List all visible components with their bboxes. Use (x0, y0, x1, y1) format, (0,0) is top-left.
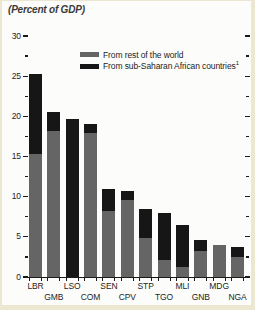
x-axis-label: MDG (203, 282, 235, 291)
x-bar-edge-tick (84, 278, 85, 281)
chart-title: (Percent of GDP) (8, 4, 85, 15)
y-axis-minor-tick-right (246, 256, 249, 257)
x-axis-label: SEN (93, 282, 125, 291)
bar-segment-sub-saharan (158, 213, 171, 260)
y-axis-label: 10 (4, 192, 21, 201)
bar-segment-sub-saharan (84, 124, 97, 134)
x-axis-label: LSO (56, 282, 88, 291)
x-bar-edge-tick (194, 278, 195, 281)
legend-swatch-sub-saharan-icon (80, 64, 99, 69)
y-axis-label: 30 (4, 32, 21, 41)
bar-segment-sub-saharan (139, 209, 152, 239)
x-bar-edge-tick (158, 278, 159, 281)
y-axis-major-tick (23, 236, 28, 237)
x-axis-label: CPV (111, 293, 143, 302)
x-axis-label: NGA (222, 293, 254, 302)
figure: (Percent of GDP) From rest of the world … (0, 0, 255, 310)
x-bar-edge-tick (206, 278, 207, 281)
y-axis-label: 15 (4, 152, 21, 161)
bar-segment-sub-saharan (66, 119, 79, 277)
y-axis-minor-tick (25, 136, 28, 137)
y-axis-major-tick (23, 196, 28, 197)
bar-segment-sub-saharan (231, 247, 244, 257)
y-axis-minor-tick-right (246, 55, 249, 56)
x-bar-edge-tick (243, 278, 244, 281)
y-axis-major-tick (23, 35, 28, 36)
y-axis-minor-tick (25, 216, 28, 217)
y-axis-minor-tick-right (246, 136, 249, 137)
y-axis-major-tick (23, 116, 28, 117)
bar-segment-rest-of-world (176, 267, 189, 277)
bar-segment-rest-of-world (139, 238, 152, 277)
bar-segment-sub-saharan (176, 225, 189, 268)
x-bar-edge-tick (59, 278, 60, 281)
legend: From rest of the world From sub-Saharan … (80, 49, 239, 72)
bar-segment-rest-of-world (158, 260, 171, 277)
legend-label-sub-saharan: From sub-Saharan African countries (103, 61, 236, 71)
y-axis-minor-tick-right (246, 216, 249, 217)
y-axis-major-tick (23, 276, 28, 277)
x-axis-label: GMB (38, 293, 70, 302)
bar-segment-rest-of-world (231, 257, 244, 277)
legend-label-rest-of-world: From rest of the world (103, 50, 183, 60)
bar-segment-rest-of-world (29, 154, 42, 277)
bar-segment-sub-saharan (102, 189, 115, 211)
y-axis-minor-tick (25, 55, 28, 56)
x-axis-label: MLI (166, 282, 198, 291)
y-axis-label: 20 (4, 112, 21, 121)
bar-segment-rest-of-world (84, 133, 97, 277)
x-axis-label: GNB (185, 293, 217, 302)
y-axis-minor-tick-right (246, 176, 249, 177)
legend-footnote-marker: 1 (236, 60, 239, 66)
x-axis-label: COM (75, 293, 107, 302)
legend-item-rest-of-world: From rest of the world (80, 49, 239, 61)
x-bar-edge-tick (96, 278, 97, 281)
bar-segment-rest-of-world (194, 251, 207, 277)
x-axis-label: STP (130, 282, 162, 291)
x-bar-edge-tick (47, 278, 48, 281)
y-axis-major-tick-right (245, 236, 250, 237)
legend-swatch-rest-of-world-icon (80, 52, 99, 57)
y-axis-major-tick-right (245, 35, 250, 36)
bar-segment-rest-of-world (47, 131, 60, 277)
y-axis-minor-tick (25, 176, 28, 177)
y-axis-major-tick (23, 156, 28, 157)
y-axis-label: 0 (4, 273, 21, 282)
y-axis-major-tick-right (245, 276, 250, 277)
x-bar-edge-tick (121, 278, 122, 281)
y-axis-minor-tick-right (246, 96, 249, 97)
x-bar-edge-tick (170, 278, 171, 281)
bar-segment-sub-saharan (121, 191, 134, 200)
stacked-bar-chart: (Percent of GDP) From rest of the world … (0, 0, 255, 310)
y-axis-major-tick (23, 76, 28, 77)
y-axis-label: 25 (4, 72, 21, 81)
bar-segment-rest-of-world (213, 245, 226, 277)
y-axis-major-tick-right (245, 196, 250, 197)
x-axis-label: LBR (20, 282, 52, 291)
bar-segment-sub-saharan (194, 240, 207, 251)
bar-segment-sub-saharan (29, 74, 42, 154)
y-axis-label: 5 (4, 232, 21, 241)
y-axis-minor-tick (25, 96, 28, 97)
bar-segment-rest-of-world (121, 200, 134, 277)
y-axis-major-tick-right (245, 156, 250, 157)
y-axis-major-tick-right (245, 76, 250, 77)
x-axis-label: TGO (148, 293, 180, 302)
bar-segment-sub-saharan (47, 112, 60, 130)
legend-item-sub-saharan: From sub-Saharan African countries1 (80, 61, 239, 73)
y-axis-major-tick-right (245, 116, 250, 117)
bar-segment-rest-of-world (102, 211, 115, 277)
y-axis-minor-tick (25, 256, 28, 257)
x-bar-edge-tick (133, 278, 134, 281)
x-bar-edge-tick (231, 278, 232, 281)
